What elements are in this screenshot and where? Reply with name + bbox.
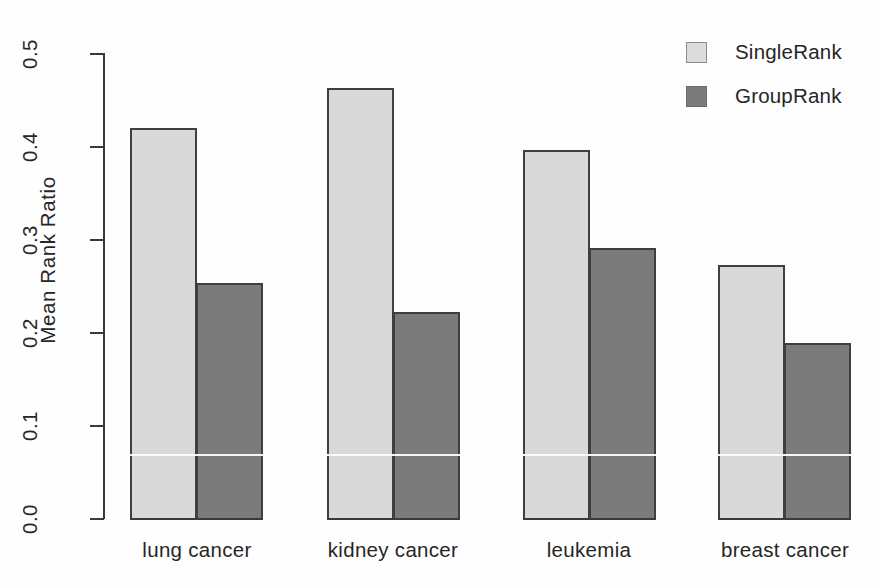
y-tick-5 xyxy=(90,53,104,55)
x-label-breast-cancer: breast cancer xyxy=(696,538,874,562)
bar-lung-cancer-grouprank xyxy=(196,283,263,520)
bar-kidney-cancer-singlerank xyxy=(327,88,394,520)
x-label-lung-cancer: lung cancer xyxy=(108,538,286,562)
y-tick-1 xyxy=(90,425,104,427)
y-axis-line xyxy=(103,53,105,519)
legend-label-singlerank: SingleRank xyxy=(735,40,842,64)
x-label-leukemia: leukemia xyxy=(500,538,678,562)
y-tick-0 xyxy=(90,518,104,520)
y-tick-label-1: 0.1 xyxy=(18,396,42,456)
bar-leukemia-singlerank xyxy=(523,150,590,520)
bar-lung-cancer-singlerank xyxy=(130,128,197,520)
y-axis-title: Mean Rank Ratio xyxy=(36,150,60,370)
bar-chart: 0.0 0.1 0.2 0.3 0.4 0.5 Mean Rank Ratio … xyxy=(0,0,883,588)
y-tick-4 xyxy=(90,146,104,148)
x-baseline-group-2 xyxy=(327,518,460,520)
bar-breast-cancer-grouprank xyxy=(784,343,851,520)
legend-swatch-grouprank-icon xyxy=(686,86,707,107)
x-baseline-group-3 xyxy=(523,518,656,520)
y-tick-3 xyxy=(90,239,104,241)
legend-swatch-singlerank-icon xyxy=(686,42,707,63)
x-baseline-group-4 xyxy=(718,518,851,520)
y-tick-2 xyxy=(90,332,104,334)
bar-breast-cancer-singlerank xyxy=(718,265,785,520)
y-tick-label-5: 0.5 xyxy=(18,24,42,84)
legend-item-singlerank: SingleRank xyxy=(686,30,876,74)
x-baseline-group-1 xyxy=(130,518,263,520)
legend: SingleRank GroupRank xyxy=(686,30,876,118)
bar-kidney-cancer-grouprank xyxy=(393,312,460,520)
legend-label-grouprank: GroupRank xyxy=(735,84,842,108)
legend-item-grouprank: GroupRank xyxy=(686,74,876,118)
y-tick-label-0: 0.0 xyxy=(18,489,42,549)
x-label-kidney-cancer: kidney cancer xyxy=(304,538,482,562)
bar-leukemia-grouprank xyxy=(589,248,656,520)
